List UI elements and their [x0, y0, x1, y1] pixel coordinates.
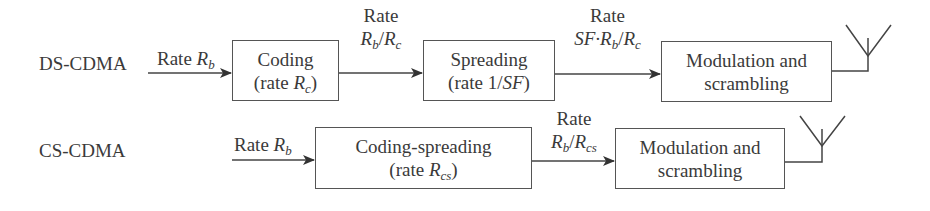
- ds-spreading-block: Spreading (rate 1/SF): [423, 40, 555, 101]
- s: c: [396, 37, 402, 52]
- block-title: Coding-spreading: [355, 135, 491, 158]
- ds-coding-block: Coding (rate Rc): [232, 40, 339, 101]
- row-label-ds-cdma: DS-CDMA: [39, 53, 127, 75]
- antenna-icon: [799, 115, 847, 163]
- label-sub: b: [208, 57, 215, 72]
- edge-top: Rate: [345, 4, 417, 27]
- t: ): [311, 72, 317, 93]
- block-rate: (rate 1/SF): [448, 71, 530, 94]
- v: R: [429, 159, 441, 180]
- block-rate: (rate Rcs): [389, 158, 457, 181]
- edge-bottom: Rb/Rcs: [535, 130, 613, 153]
- v: R: [623, 28, 635, 49]
- ds-edge-label-2: Rate SF·Rb/Rc: [560, 4, 655, 50]
- ds-edge-label-1: Rate Rb/Rc: [345, 4, 417, 50]
- v: SF: [502, 72, 523, 93]
- t: (rate 1/: [448, 72, 502, 93]
- label-sub: b: [285, 143, 292, 158]
- ds-input-rate-label: Rate Rb: [157, 48, 215, 70]
- row-label-cs-cdma: CS-CDMA: [39, 140, 126, 162]
- v: SF·: [574, 28, 600, 49]
- t: (rate: [254, 72, 294, 93]
- block-rate: (rate Rc): [254, 71, 317, 94]
- v: R: [551, 131, 563, 152]
- v: R: [574, 131, 586, 152]
- edge-top: Rate: [535, 107, 613, 130]
- v: R: [293, 72, 305, 93]
- t: ): [451, 159, 457, 180]
- edge-top: Rate: [560, 4, 655, 27]
- v: R: [384, 28, 396, 49]
- cs-modulation-block: Modulation and scrambling: [615, 128, 785, 189]
- s: c: [635, 37, 641, 52]
- label-text: Rate: [157, 48, 197, 69]
- cs-coding-spreading-block: Coding-spreading (rate Rcs): [315, 127, 532, 189]
- block-title: Spreading: [450, 48, 527, 71]
- t: (rate: [389, 159, 429, 180]
- block-subtitle: scrambling: [658, 159, 742, 182]
- block-title: Modulation and: [686, 49, 807, 72]
- antenna-icon: [845, 24, 893, 72]
- label-text: Rate: [234, 134, 274, 155]
- block-title: Modulation and: [640, 136, 761, 159]
- cs-edge-label-1: Rate Rb/Rcs: [535, 107, 613, 153]
- v: R: [600, 28, 612, 49]
- v: R: [361, 28, 373, 49]
- label-var: R: [197, 48, 209, 69]
- t: ): [524, 72, 530, 93]
- edge-bottom: Rb/Rc: [345, 27, 417, 50]
- cs-input-rate-label: Rate Rb: [234, 134, 292, 156]
- block-title: Coding: [258, 48, 314, 71]
- block-subtitle: scrambling: [704, 72, 788, 95]
- ds-modulation-block: Modulation and scrambling: [661, 41, 832, 102]
- s: cs: [586, 140, 597, 155]
- label-var: R: [274, 134, 286, 155]
- edge-bottom: SF·Rb/Rc: [560, 27, 655, 50]
- s: cs: [441, 168, 452, 183]
